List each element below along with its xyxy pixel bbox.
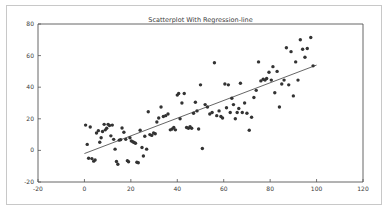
scatterplot-chart — [0, 0, 390, 213]
scatter-point — [190, 127, 193, 130]
scatter-point — [217, 109, 220, 112]
x-axis-tick-label: 0 — [72, 186, 96, 192]
scatter-point — [278, 105, 281, 108]
scatter-point — [142, 154, 145, 157]
scatter-point — [252, 96, 255, 99]
scatter-point — [140, 146, 143, 149]
x-axis-tick-label: 20 — [119, 186, 143, 192]
scatter-point — [159, 105, 162, 108]
y-axis-tick-label: -20 — [12, 179, 34, 185]
scatter-point — [296, 78, 299, 81]
scatter-point — [178, 117, 181, 120]
scatter-point — [282, 78, 285, 81]
scatter-point — [197, 127, 200, 130]
scatter-point — [250, 116, 253, 119]
scatter-point — [122, 131, 125, 134]
scatter-point — [257, 60, 260, 63]
scatter-point — [210, 111, 213, 114]
scatter-point — [99, 136, 102, 139]
scatter-point — [267, 70, 270, 73]
scatter-point — [111, 123, 114, 126]
scatter-point — [309, 36, 312, 39]
scatter-point — [265, 77, 268, 80]
axes-frame-lines — [38, 24, 363, 182]
scatter-point — [243, 101, 246, 104]
scatter-point — [128, 136, 131, 139]
scatter-point — [180, 101, 183, 104]
scatter-point — [105, 127, 108, 130]
scatter-points-group — [84, 36, 315, 166]
axes-spines — [38, 24, 363, 182]
scatter-point — [234, 117, 237, 120]
scatter-point — [232, 103, 235, 106]
scatter-point — [289, 50, 292, 53]
scatter-point — [227, 83, 230, 86]
scatter-point — [248, 128, 251, 131]
scatter-point — [116, 163, 119, 166]
x-axis-tick-label: 80 — [258, 186, 282, 192]
scatter-point — [127, 160, 130, 163]
scatter-point — [86, 143, 89, 146]
scatter-point — [225, 106, 228, 109]
scatter-point — [98, 140, 101, 143]
scatter-point — [174, 128, 177, 131]
scatter-point — [235, 111, 238, 114]
scatter-point — [97, 129, 100, 132]
scatter-point — [206, 105, 209, 108]
scatter-point — [157, 116, 160, 119]
figure-root: Scatterplot With Regression-line -200204… — [0, 0, 390, 213]
scatter-point — [311, 64, 314, 67]
scatter-point — [109, 134, 112, 137]
scatter-point — [93, 158, 96, 161]
scatter-point — [192, 112, 195, 115]
scatter-point — [143, 134, 146, 137]
scatter-point — [134, 142, 137, 145]
scatter-point — [102, 123, 105, 126]
scatter-point — [294, 60, 297, 63]
scatter-point — [137, 161, 140, 164]
y-axis-tick-label: 0 — [12, 147, 34, 153]
scatter-point — [194, 101, 197, 104]
scatter-point — [199, 83, 202, 86]
scatter-point — [145, 147, 148, 150]
scatter-point — [147, 110, 150, 113]
scatter-point — [195, 109, 198, 112]
scatter-point — [241, 111, 244, 114]
scatter-point — [87, 157, 90, 160]
scatter-point — [280, 82, 283, 85]
scatter-point — [166, 112, 169, 115]
scatter-point — [223, 82, 226, 85]
scatter-point — [215, 114, 218, 117]
scatter-point — [287, 83, 290, 86]
scatter-point — [275, 70, 278, 73]
scatter-point — [237, 107, 240, 110]
scatter-point — [112, 138, 115, 141]
scatter-point — [299, 38, 302, 41]
scatter-point — [292, 94, 295, 97]
scatter-point — [155, 120, 158, 123]
scatter-point — [138, 128, 141, 131]
axis-tick-marks — [38, 24, 363, 182]
scatter-point — [229, 111, 232, 114]
scatter-point — [273, 91, 276, 94]
scatter-point — [285, 46, 288, 49]
scatter-point — [271, 65, 274, 68]
x-axis-tick-label: 120 — [351, 186, 375, 192]
scatter-point — [245, 112, 248, 115]
scatter-point — [303, 55, 306, 58]
x-axis-tick-label: 60 — [212, 186, 236, 192]
scatter-point — [255, 89, 258, 92]
y-axis-tick-label: 80 — [12, 21, 34, 27]
scatter-point — [124, 138, 127, 141]
scatter-point — [183, 92, 186, 95]
x-axis-tick-label: 40 — [165, 186, 189, 192]
x-axis-tick-label: 100 — [305, 186, 329, 192]
scatter-point — [177, 92, 180, 95]
scatter-point — [213, 61, 216, 64]
scatter-point — [120, 126, 123, 129]
scatter-point — [230, 97, 233, 100]
scatter-point — [201, 147, 204, 150]
scatter-point — [221, 116, 224, 119]
y-axis-tick-label: 20 — [12, 116, 34, 122]
y-axis-tick-label: 60 — [12, 53, 34, 59]
